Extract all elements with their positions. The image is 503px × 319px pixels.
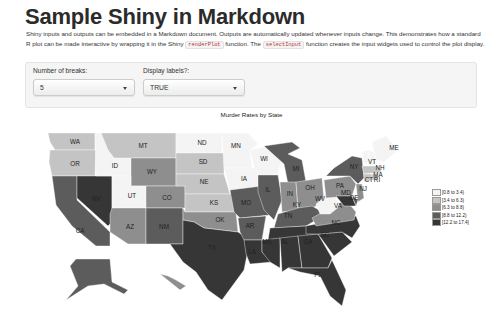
svg-text:MT: MT [138, 142, 147, 149]
page-description: Shiny inputs and outputs can be embedded… [26, 29, 486, 50]
svg-text:MN: MN [231, 142, 241, 149]
labels-select[interactable]: TRUE [143, 79, 245, 96]
svg-text:NC: NC [331, 219, 341, 226]
legend-swatch [432, 204, 441, 211]
svg-text:ME: ME [389, 144, 398, 151]
svg-text:FL: FL [314, 271, 322, 278]
legend-label: [12.2 to 17.4] [442, 220, 469, 225]
svg-text:CA: CA [76, 227, 86, 234]
svg-text:AZ: AZ [126, 223, 134, 230]
svg-text:ID: ID [112, 162, 119, 169]
svg-text:IN: IN [287, 190, 294, 197]
svg-text:UT: UT [128, 192, 137, 199]
chevron-down-icon [233, 87, 237, 90]
legend-item: [12.2 to 17.4] [432, 219, 469, 227]
svg-text:WV: WV [315, 195, 326, 202]
svg-text:MI: MI [293, 165, 300, 172]
breaks-value: 5 [40, 84, 44, 91]
legend-label: [8.8 to 12.2) [442, 213, 467, 218]
svg-text:MO: MO [241, 199, 251, 206]
us-choropleth-map: WA OR CA NV ID MT WY UT CO AZ NM ND SD N… [0, 108, 503, 319]
svg-text:SC: SC [321, 231, 330, 238]
legend-swatch [432, 197, 441, 204]
svg-text:CT: CT [365, 176, 374, 183]
legend-item: [0.8 to 3.4) [432, 189, 469, 197]
svg-text:NV: NV [92, 195, 102, 202]
svg-text:NE: NE [200, 178, 209, 185]
legend-label: [0.8 to 3.4) [442, 190, 464, 195]
svg-text:TX: TX [208, 244, 217, 251]
legend-item: [6.3 to 8.8) [432, 204, 469, 212]
legend-item: [3.4 to 6.3) [432, 197, 469, 205]
svg-text:AR: AR [246, 222, 255, 229]
labels-value: TRUE [150, 84, 169, 91]
svg-text:MS: MS [262, 238, 271, 245]
breaks-field: Number of breaks: 5 [33, 67, 135, 96]
svg-text:NH: NH [375, 164, 385, 171]
svg-text:CO: CO [162, 194, 172, 201]
chevron-down-icon [123, 87, 127, 90]
state-hi [160, 274, 186, 290]
description-text: function. The [224, 40, 263, 47]
legend-item: [8.8 to 12.2) [432, 212, 469, 220]
svg-text:KS: KS [210, 199, 218, 206]
plot-legend: [0.8 to 3.4) [3.4 to 6.3) [6.3 to 8.8) [… [432, 189, 469, 227]
svg-text:NM: NM [159, 223, 169, 230]
code-renderplot: renderPlot [185, 41, 223, 49]
svg-text:DE: DE [350, 194, 359, 201]
svg-text:IA: IA [241, 175, 248, 182]
svg-text:ND: ND [197, 139, 207, 146]
legend-label: [6.3 to 8.8) [442, 205, 464, 210]
svg-text:OH: OH [305, 184, 315, 191]
svg-text:NY: NY [350, 163, 360, 170]
breaks-select[interactable]: 5 [33, 79, 135, 96]
svg-text:WA: WA [70, 138, 81, 145]
svg-text:WY: WY [147, 168, 158, 175]
svg-text:KY: KY [293, 201, 302, 208]
svg-text:GA: GA [303, 238, 313, 245]
svg-text:OR: OR [70, 160, 80, 167]
svg-text:SD: SD [199, 158, 208, 165]
svg-text:PA: PA [336, 182, 345, 189]
state-ak [66, 259, 128, 300]
svg-text:WI: WI [260, 155, 268, 162]
svg-text:NJ: NJ [359, 185, 367, 192]
svg-text:VA: VA [334, 202, 343, 209]
murder-rates-plot: Murder Rates by State [0, 108, 503, 319]
svg-text:LA: LA [248, 248, 257, 255]
svg-text:AL: AL [281, 238, 289, 245]
svg-text:RI: RI [374, 176, 381, 183]
legend-swatch [432, 219, 441, 226]
legend-label: [3.4 to 6.3) [442, 198, 464, 203]
breaks-label: Number of breaks: [33, 67, 135, 74]
legend-swatch [432, 189, 441, 196]
description-text: function creates the input widgets used … [304, 40, 484, 47]
input-panel: Number of breaks: 5 Display labels?: TRU… [25, 62, 477, 108]
svg-text:OK: OK [215, 216, 225, 223]
code-selectinput: selectInput [263, 41, 305, 49]
labels-field: Display labels?: TRUE [143, 67, 245, 96]
page-title: Sample Shiny in Markdown [25, 4, 305, 30]
svg-text:TN: TN [284, 212, 293, 219]
labels-label: Display labels?: [143, 67, 245, 74]
legend-swatch [432, 212, 441, 219]
svg-text:IL: IL [265, 186, 271, 193]
